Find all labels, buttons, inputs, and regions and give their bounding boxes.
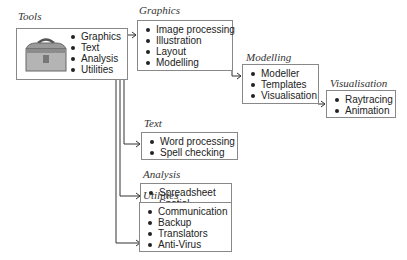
toolbox-icon [22,35,70,75]
tools-item-text: Text [71,42,121,53]
utilities-item: Translators [148,228,227,239]
visualisation-item: Raytracing [335,94,391,105]
utilities-box: Communication Backup Translators Anti-Vi… [139,202,232,252]
text-item: Word processing [150,136,233,147]
visualisation-item: Animation [335,105,391,116]
modelling-item: Templates [251,79,314,90]
utilities-title: Utilities [143,189,178,201]
tools-item-graphics: Graphics [71,31,121,42]
tools-item-utilities: Utilities [71,64,121,75]
modelling-box: Modeller Templates Visualisation [242,64,319,104]
graphics-item: Layout [146,46,228,57]
text-item: Spell checking [150,147,233,158]
text-box: Word processing Spell checking [141,132,238,160]
graphics-item: Illustration [146,35,228,46]
modelling-title: Modelling [246,51,291,63]
text-title: Text [144,117,162,129]
modelling-item: Modeller [251,68,314,79]
visualisation-title: Visualisation [330,77,387,89]
modelling-item: Visualisation [251,90,314,101]
tools-box: Graphics Text Analysis Utilities [16,28,128,80]
tools-item-analysis: Analysis [71,53,121,64]
graphics-item: Modelling [146,57,228,68]
utilities-item: Backup [148,217,227,228]
graphics-title: Graphics [139,4,180,16]
utilities-item: Communication [148,206,227,217]
visualisation-box: Raytracing Animation [326,90,396,118]
utilities-item: Anti-Virus [148,239,227,250]
graphics-item: Image processing [146,24,228,35]
tools-title: Tools [18,10,41,22]
analysis-title: Analysis [143,168,180,180]
graphics-box: Image processing Illustration Layout Mod… [137,20,233,71]
